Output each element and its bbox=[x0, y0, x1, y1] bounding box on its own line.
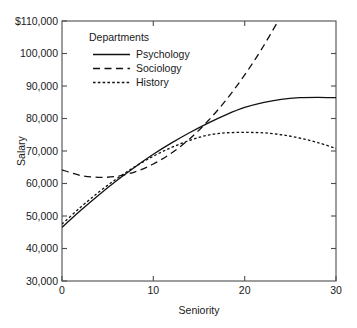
legend-entry-psychology: Psychology bbox=[93, 48, 190, 60]
y-axis-ticks-left bbox=[62, 21, 67, 281]
y-tick-label: 70,000 bbox=[26, 145, 58, 157]
plot-frame bbox=[62, 21, 336, 281]
chart-container: $110,000 100,000 90,000 80,000 70,000 60… bbox=[0, 0, 357, 328]
y-axis-title: Salary bbox=[15, 135, 27, 166]
series-line-history bbox=[62, 132, 336, 224]
salary-seniority-line-chart: $110,000 100,000 90,000 80,000 70,000 60… bbox=[0, 0, 357, 328]
y-tick-label: 30,000 bbox=[26, 275, 58, 287]
legend-entry-sociology: Sociology bbox=[93, 62, 182, 74]
legend-label: History bbox=[136, 76, 169, 88]
y-tick-label: 60,000 bbox=[26, 177, 58, 189]
legend-entry-history: History bbox=[93, 76, 169, 88]
legend-label: Psychology bbox=[136, 48, 190, 60]
series-line-psychology bbox=[62, 97, 336, 227]
y-tick-label: $110,000 bbox=[15, 15, 58, 27]
y-tick-label: 40,000 bbox=[26, 242, 58, 254]
x-tick-label: 30 bbox=[330, 284, 342, 296]
y-tick-label: 80,000 bbox=[26, 112, 58, 124]
x-axis-ticks-top bbox=[153, 21, 244, 26]
legend: Departments Psychology Sociology History bbox=[89, 31, 190, 88]
y-axis-ticks-right bbox=[331, 54, 336, 249]
y-tick-label: 50,000 bbox=[26, 210, 58, 222]
legend-label: Sociology bbox=[136, 62, 182, 74]
x-tick-label: 10 bbox=[147, 284, 159, 296]
x-axis-ticks-bottom bbox=[62, 276, 336, 281]
x-axis-title: Seniority bbox=[179, 304, 221, 316]
y-tick-label: 90,000 bbox=[26, 80, 58, 92]
x-tick-label: 20 bbox=[239, 284, 251, 296]
y-tick-label: 100,000 bbox=[20, 47, 58, 59]
x-tick-label: 0 bbox=[59, 284, 65, 296]
x-axis-tick-labels: 0 10 20 30 bbox=[59, 284, 342, 296]
series-group bbox=[62, 15, 336, 227]
legend-title: Departments bbox=[89, 31, 149, 43]
